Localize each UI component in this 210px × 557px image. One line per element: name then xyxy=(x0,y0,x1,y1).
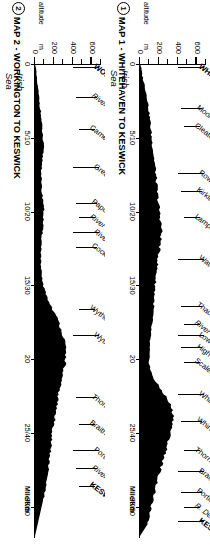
y-tick-label: 200 xyxy=(50,0,58,54)
y-tick-label: 400 xyxy=(174,0,182,54)
map-2-altitude-unit: m xyxy=(38,44,45,50)
map-2-sea-line2: Sea xyxy=(4,73,14,90)
y-minor-tick xyxy=(167,59,168,64)
map-2-number-badge: 2 xyxy=(12,2,25,15)
map-1-distance-axis-label: Mile/Km xyxy=(129,486,136,513)
map-2-plot-area xyxy=(35,64,101,536)
y-minor-tick xyxy=(81,59,82,64)
x-tick-label: 0 xyxy=(128,62,136,66)
y-tick-mark xyxy=(53,57,54,64)
x-tick-label: 10/20 xyxy=(128,202,136,221)
map-2-column: 2 MAP 2 - WORKINGTON TO KESWICK Irish Se… xyxy=(0,0,105,557)
x-tick-label: 20 xyxy=(128,355,136,363)
x-tick-label: 5/10 xyxy=(23,130,31,145)
y-tick-mark xyxy=(195,57,196,64)
map-2-distance-axis-label: Mile/Km xyxy=(24,486,31,513)
y-minor-tick xyxy=(148,59,149,64)
map-1-altitude-unit: m xyxy=(143,44,150,50)
x-tick-label: 10/20 xyxy=(23,202,31,221)
map-1-title: MAP 1 - WHITEHAVEN TO KESWICK xyxy=(117,17,127,175)
y-tick-mark xyxy=(158,57,159,64)
y-tick-mark xyxy=(34,57,35,64)
x-tick-label: 15/30 xyxy=(128,276,136,295)
y-minor-tick xyxy=(43,59,44,64)
map-2-sea-line1: Irish xyxy=(15,73,25,91)
x-tick-label: 25/40 xyxy=(128,423,136,442)
map-2-title: MAP 2 - WORKINGTON TO KESWICK xyxy=(12,17,22,179)
map-1-elevation-area xyxy=(140,64,206,536)
map-2-altitude-axis-label: altitude xyxy=(38,2,45,25)
y-tick-mark xyxy=(72,57,73,64)
map-1-plot-area xyxy=(140,64,206,536)
x-tick-label: 25/40 xyxy=(23,423,31,442)
y-tick-label: 400 xyxy=(69,0,77,54)
map-2-elevation-area xyxy=(35,64,101,536)
y-tick-label: 600 xyxy=(88,0,96,54)
y-tick-mark xyxy=(90,57,91,64)
profile-sheet: 1 MAP 1 - WHITEHAVEN TO KESWICK Irish Se… xyxy=(0,0,210,557)
y-minor-tick xyxy=(62,59,63,64)
y-tick-label: 0 xyxy=(31,0,39,54)
x-tick-label: 15/30 xyxy=(23,276,31,295)
y-tick-mark xyxy=(139,57,140,64)
map-1-number-badge: 1 xyxy=(117,2,130,15)
y-tick-label: 200 xyxy=(155,0,163,54)
map-1-altitude-axis-label: altitude xyxy=(143,2,150,25)
y-tick-label: 600 xyxy=(193,0,201,54)
x-tick-label: 20 xyxy=(23,355,31,363)
map-1-column: 1 MAP 1 - WHITEHAVEN TO KESWICK Irish Se… xyxy=(105,0,210,557)
y-minor-tick xyxy=(186,59,187,64)
y-tick-label: 0 xyxy=(136,0,144,54)
x-tick-label: 5/10 xyxy=(128,130,136,145)
map-1-frame: 1 MAP 1 - WHITEHAVEN TO KESWICK Irish Se… xyxy=(105,0,210,557)
y-tick-mark xyxy=(177,57,178,64)
x-tick-label: 0 xyxy=(23,62,31,66)
map-2-frame: 2 MAP 2 - WORKINGTON TO KESWICK Irish Se… xyxy=(0,0,105,557)
map-1-sea-line1: Irish xyxy=(120,70,130,88)
map-1-sea-line2: Sea xyxy=(109,70,119,87)
